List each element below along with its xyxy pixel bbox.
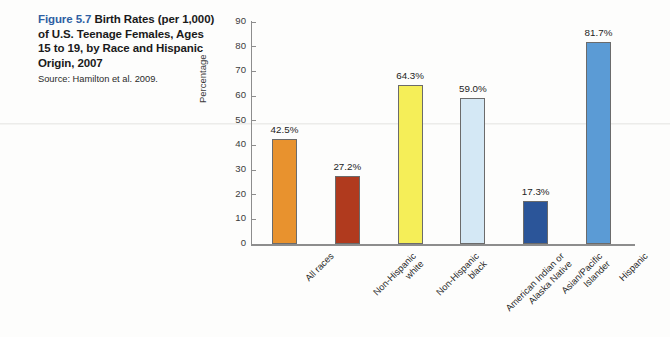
- bar-hispanic[interactable]: [586, 42, 611, 244]
- bar-value-label-1: 27.2%: [333, 161, 361, 172]
- y-tick-label-60: 60: [206, 89, 246, 100]
- x-category-label-2: Non-Hispanicblack: [434, 251, 490, 307]
- y-tick-mark-30: [251, 170, 256, 171]
- bar-non-hispanic-white[interactable]: [335, 176, 360, 243]
- bar-american-indian-or-alaska-native[interactable]: [460, 98, 485, 244]
- x-axis-line: [251, 244, 635, 246]
- x-category-label-5: Hispanic: [617, 251, 650, 284]
- bar-value-label-2: 64.3%: [396, 70, 424, 81]
- bar-asian-pacific-islander[interactable]: [523, 201, 548, 244]
- y-tick-mark-90: [251, 22, 256, 23]
- bar-value-label-0: 42.5%: [271, 124, 299, 135]
- y-tick-mark-0: [251, 244, 256, 245]
- y-tick-label-0: 0: [206, 237, 246, 248]
- y-tick-label-40: 40: [206, 138, 246, 149]
- bar-all-races[interactable]: [272, 139, 297, 244]
- bar-chart: Percentage 0102030405060708090 42.5%27.2…: [0, 0, 670, 337]
- x-category-label-1: Non-Hispanicwhite: [372, 251, 428, 307]
- y-tick-mark-40: [251, 145, 256, 146]
- figure-container: Figure 5.7 Birth Rates (per 1,000) of U.…: [0, 0, 670, 337]
- y-tick-label-90: 90: [206, 15, 246, 26]
- y-axis-tick-labels: 0102030405060708090: [206, 0, 246, 337]
- bar-value-label-5: 81.7%: [585, 27, 613, 38]
- y-tick-mark-60: [251, 96, 256, 97]
- bar-value-label-3: 59.0%: [459, 83, 487, 94]
- x-category-label-0: All races: [303, 251, 336, 284]
- bar-value-label-4: 17.3%: [522, 186, 550, 197]
- y-tick-mark-10: [251, 219, 256, 220]
- bar-non-hispanic-black[interactable]: [398, 85, 423, 244]
- y-tick-mark-70: [251, 71, 256, 72]
- y-tick-label-20: 20: [206, 188, 246, 199]
- y-tick-mark-80: [251, 46, 256, 47]
- y-axis-line: [251, 21, 252, 245]
- x-category-label-line: Hispanic: [617, 251, 650, 284]
- y-tick-label-50: 50: [206, 114, 246, 125]
- y-tick-mark-20: [251, 194, 256, 195]
- y-tick-label-70: 70: [206, 64, 246, 75]
- y-tick-mark-50: [251, 120, 256, 121]
- y-tick-label-30: 30: [206, 163, 246, 174]
- x-category-label-line: All races: [303, 251, 336, 284]
- y-tick-label-80: 80: [206, 40, 246, 51]
- y-tick-label-10: 10: [206, 212, 246, 223]
